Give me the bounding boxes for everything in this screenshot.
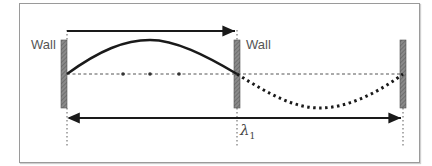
middle-wall-label: Wall — [246, 37, 271, 52]
left-wall — [61, 40, 67, 108]
dotted-wave — [237, 74, 403, 108]
standing-wave-diagram — [0, 0, 432, 166]
wavelength-label: λ1 — [240, 121, 255, 141]
solid-wave — [67, 40, 237, 74]
left-wall-label: Wall — [31, 37, 56, 52]
